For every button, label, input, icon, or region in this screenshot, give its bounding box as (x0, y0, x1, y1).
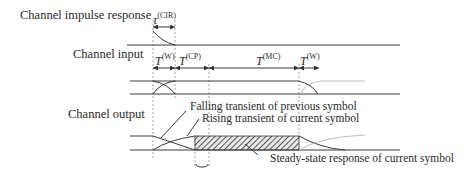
window-start-symbol: T(W) (155, 52, 175, 69)
input-next-symbol (300, 81, 365, 94)
steady-state-block (195, 136, 299, 150)
falling-transient-label: Falling transient of previous symbol (190, 100, 357, 112)
window-end-symbol: T(W) (300, 52, 320, 69)
cir-symbol: τ(CIR) (153, 11, 176, 28)
multicarrier-symbol: T(MC) (256, 52, 280, 69)
output-row-label: Channel output (68, 107, 145, 122)
steady-state-label: Steady-state response of current symbol (270, 152, 454, 164)
impulse-row (127, 27, 400, 45)
timing-diagram (0, 0, 464, 175)
input-row-label: Channel input (73, 47, 143, 62)
impulse-row-label: Channel impulse response (20, 8, 151, 23)
cyclic-prefix-symbol: T(CP) (179, 52, 201, 69)
rising-transient-label: Rising transient of current symbol (202, 112, 359, 124)
